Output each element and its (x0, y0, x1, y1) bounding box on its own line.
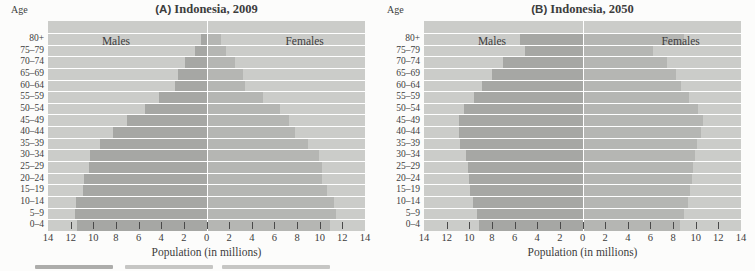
age-label: 75–79 (3, 45, 44, 57)
axis-tick (718, 222, 719, 229)
female-bar (583, 185, 691, 196)
axis-tick-label: 4 (625, 232, 630, 243)
axis-tick-label: 8 (113, 232, 118, 243)
male-bar (459, 115, 582, 126)
female-bar (207, 127, 295, 138)
male-bar (479, 220, 582, 231)
female-bar (207, 139, 309, 150)
axis-tick-label: 12 (337, 232, 348, 243)
age-label: 70–74 (3, 56, 44, 68)
age-label: 20–24 (379, 173, 420, 185)
axis-tick (320, 222, 321, 229)
panel-a-age-column: 80+75–7970–7465–6960–6455–5950–5445–4940… (3, 21, 48, 231)
panel-a-x-axis-title: Population (in millions) (48, 244, 365, 258)
female-bar (583, 220, 680, 231)
panel-a-plot: Males Females (48, 21, 365, 231)
female-bar (583, 127, 702, 138)
axis-tick-label: 0 (580, 232, 585, 243)
female-bar (583, 150, 695, 161)
axis-tick-label: 14 (360, 232, 371, 243)
panel-b-plot: Males Females (424, 21, 741, 231)
axis-tick (537, 222, 538, 229)
panel-a-header: Age (A) Indonesia, 2009 (3, 0, 365, 21)
age-label: 50–54 (3, 103, 44, 115)
female-bar (583, 139, 697, 150)
panel-a-title-prefix: (A) (155, 3, 171, 15)
axis-tick-label: 4 (159, 232, 164, 243)
axis-tick-label: 6 (272, 232, 277, 243)
age-label: 75–79 (379, 45, 420, 57)
age-label: 50–54 (379, 103, 420, 115)
male-bar (460, 139, 582, 150)
female-bar (583, 197, 688, 208)
axis-tick (93, 222, 94, 229)
male-bar (175, 81, 207, 92)
axis-tick-label: 10 (88, 232, 99, 243)
axis-tick-label: 12 (713, 232, 724, 243)
axis-tick (71, 222, 72, 229)
axis-tick (229, 222, 230, 229)
female-bar (207, 197, 335, 208)
female-bar (583, 174, 693, 185)
panel-b: Age (B) Indonesia, 2050 80+75–7970–7465–… (379, 0, 741, 258)
female-bar (583, 162, 694, 173)
axis-tick (139, 222, 140, 229)
male-bar (113, 127, 207, 138)
males-label: Males (102, 35, 130, 47)
age-label: 30–34 (379, 149, 420, 161)
male-bar (195, 46, 206, 57)
female-bar (207, 46, 226, 57)
male-bar (75, 209, 206, 220)
age-column-spacer (379, 21, 420, 33)
age-label: 5–9 (3, 208, 44, 220)
age-label: 5–9 (379, 208, 420, 220)
female-bar (583, 81, 681, 92)
male-bar (76, 197, 206, 208)
age-label: 80+ (379, 33, 420, 45)
female-bar (207, 57, 235, 68)
age-label: 25–29 (379, 161, 420, 173)
axis-tick (297, 222, 298, 229)
axis-tick (560, 222, 561, 229)
caption-smudge (125, 265, 213, 269)
axis-tick-label: 2 (557, 232, 562, 243)
axis-tick-label: 8 (489, 232, 494, 243)
female-bar (583, 115, 703, 126)
age-label: 15–19 (3, 184, 44, 196)
cutoff-caption-fragment (0, 263, 755, 271)
center-divider (207, 21, 208, 231)
panel-b-header: Age (B) Indonesia, 2050 (379, 0, 741, 21)
female-bar (207, 209, 336, 220)
females-label: Females (285, 35, 323, 47)
axis-tick-label: 14 (43, 232, 54, 243)
axis-tick-label: 8 (294, 232, 299, 243)
female-bar (207, 162, 322, 173)
male-bar (473, 197, 583, 208)
axis-tick-label: 4 (249, 232, 254, 243)
male-bar (503, 57, 582, 68)
female-bar (583, 209, 685, 220)
age-label: 80+ (3, 33, 44, 45)
panel-b-body: 80+75–7970–7465–6960–6455–5950–5445–4940… (379, 21, 741, 231)
age-label: 55–59 (379, 91, 420, 103)
axis-tick (342, 222, 343, 229)
female-bar (207, 34, 222, 45)
axis-tick (696, 222, 697, 229)
age-label: 10–14 (379, 196, 420, 208)
male-bar (100, 139, 206, 150)
age-label: 55–59 (3, 91, 44, 103)
female-bar (207, 92, 264, 103)
panel-b-title-text: Indonesia, 2050 (550, 2, 633, 16)
age-label: 70–74 (379, 56, 420, 68)
axis-tick-label: 2 (227, 232, 232, 243)
age-label: 65–69 (3, 68, 44, 80)
age-label: 45–49 (3, 114, 44, 126)
axis-tick-label: 6 (648, 232, 653, 243)
female-bar (207, 185, 327, 196)
age-label: 60–64 (3, 80, 44, 92)
center-divider (583, 21, 584, 231)
female-bar (207, 81, 245, 92)
axis-tick-label: 12 (441, 232, 452, 243)
female-bar (583, 104, 698, 115)
age-axis-label: Age (11, 4, 28, 15)
